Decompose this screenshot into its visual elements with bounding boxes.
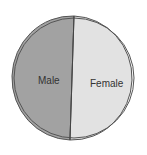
pie-chart: Male Female [0,0,147,155]
label-male: Male [38,75,60,86]
label-female: Female [90,78,124,89]
